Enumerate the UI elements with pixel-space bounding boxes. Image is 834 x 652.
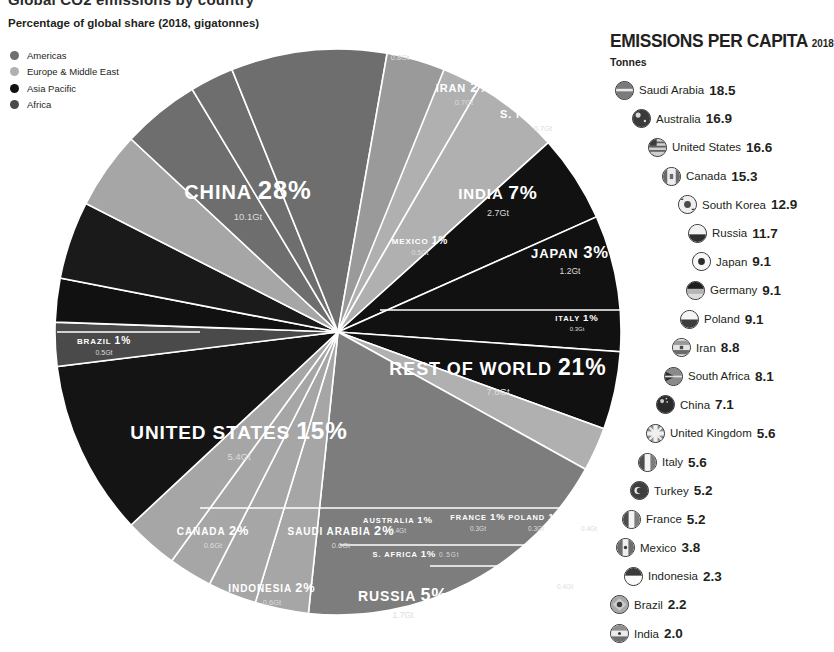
pie-label-value: 0.7Gt: [534, 124, 553, 133]
per-capita-row[interactable]: India2.0: [610, 619, 830, 648]
pie-label-country: POLAND: [508, 513, 548, 522]
per-capita-row[interactable]: Poland9.1: [610, 305, 830, 334]
flag-brazil-icon: [610, 595, 629, 614]
flag-mexico-icon: [616, 538, 635, 557]
per-capita-row[interactable]: South Korea12.9: [610, 190, 830, 219]
per-capita-row[interactable]: Indonesia2.3: [610, 562, 830, 591]
per-capita-row[interactable]: United States16.6: [610, 133, 830, 162]
svg-text:SAUDI ARABIA 2%: SAUDI ARABIA 2%: [288, 523, 395, 538]
svg-text:JAPAN 3%: JAPAN 3%: [531, 243, 609, 262]
pie-label-country: IRAN: [436, 82, 470, 94]
per-capita-value: 2.0: [664, 626, 683, 641]
pie-label-uk: UK 1%0.4Gt: [549, 569, 580, 590]
per-capita-row[interactable]: Brazil2.2: [610, 591, 830, 620]
per-capita-row[interactable]: Turkey5.2: [610, 476, 830, 505]
per-capita-value: 11.7: [752, 226, 778, 241]
per-capita-unit: Tonnes: [610, 56, 830, 68]
per-capita-country: Indonesia: [648, 570, 698, 582]
pie-label-value: 2.7Gt: [487, 208, 510, 218]
flag-france-icon: [622, 510, 641, 529]
pie-label-country: S. AFRICA: [373, 550, 421, 559]
pie-label-percent: 1%: [432, 235, 449, 246]
flag-indonesia-icon: [624, 567, 643, 586]
flag-china-icon: [656, 395, 675, 414]
per-capita-country: Brazil: [634, 599, 663, 611]
pie-label-percent: 2%: [470, 79, 492, 95]
pie-label-country: MEXICO: [392, 237, 432, 246]
per-capita-row[interactable]: Russia11.7: [610, 219, 830, 248]
per-capita-row[interactable]: France5.2: [610, 505, 830, 534]
per-capita-row[interactable]: United Kingdom5.6: [610, 419, 830, 448]
per-capita-country: Japan: [716, 256, 747, 268]
pie-label-value: 0.3Gt: [570, 326, 585, 332]
pie-label-country: BRAZIL: [77, 337, 115, 346]
per-capita-title: EMISSIONS PER CAPITA2018: [610, 30, 817, 52]
pie-label-value: 0.4Gt: [557, 583, 573, 590]
per-capita-country: Germany: [710, 284, 757, 296]
pie-label-country: UNITED STATES: [130, 422, 296, 443]
svg-text:RUSSIA 5%: RUSSIA 5%: [358, 585, 448, 605]
flag-australia-icon: [632, 109, 651, 128]
per-capita-row[interactable]: Mexico3.8: [610, 534, 830, 563]
flag-russia-icon: [688, 224, 707, 243]
per-capita-value: 5.6: [688, 455, 707, 470]
flag-united-states-icon: [648, 138, 667, 157]
pie-label-country: JAPAN: [531, 246, 583, 261]
pie-label-country: INDONESIA: [228, 583, 295, 594]
per-capita-row[interactable]: Iran8.8: [610, 333, 830, 362]
svg-text:GERMANY 2%: GERMANY 2%: [356, 34, 444, 50]
per-capita-country: Mexico: [640, 542, 676, 554]
svg-text:POLAND 1%: POLAND 1%: [508, 511, 564, 522]
per-capita-country: Canada: [686, 170, 726, 182]
pie-label-value: 0.6Gt: [332, 541, 351, 550]
per-capita-country: Russia: [712, 227, 747, 239]
per-capita-value: 16.9: [706, 111, 732, 126]
per-capita-row[interactable]: Saudi Arabia18.5: [610, 76, 830, 105]
pie-label-country: SAUDI ARABIA: [288, 526, 375, 537]
per-capita-row[interactable]: Australia16.9: [610, 105, 830, 134]
pie-label-percent: 1%: [417, 514, 433, 525]
per-capita-value: 12.9: [771, 197, 797, 212]
per-capita-country: France: [646, 513, 682, 525]
flag-italy-icon: [638, 453, 657, 472]
pie-label-percent: 2%: [422, 34, 444, 50]
svg-text:UK 1%: UK 1%: [549, 569, 580, 580]
per-capita-row[interactable]: Japan9.1: [610, 248, 830, 277]
per-capita-row[interactable]: Germany9.1: [610, 276, 830, 305]
per-capita-row[interactable]: Canada15.3: [610, 162, 830, 191]
svg-text:AUSTRALIA 1%: AUSTRALIA 1%: [363, 514, 433, 525]
pie-label-country: TURKEY: [562, 513, 601, 522]
per-capita-country: South Africa: [688, 370, 750, 382]
pie-label-percent: 5%: [420, 585, 448, 605]
per-capita-value: 9.1: [745, 312, 764, 327]
pie-label-country: UK: [549, 571, 565, 580]
pie-label-value: 0.8Gt: [391, 53, 410, 62]
per-capita-value: 5.2: [687, 512, 706, 527]
svg-text:INDIA 7%: INDIA 7%: [458, 182, 537, 203]
pie-label-value: 0.6Gt: [204, 541, 223, 550]
per-capita-value: 7.1: [715, 397, 734, 412]
per-capita-value: 2.3: [703, 569, 722, 584]
flag-germany-icon: [686, 281, 705, 300]
per-capita-title-text: EMISSIONS PER CAPITA: [610, 30, 808, 51]
pie-label-value: 0.5Gt: [411, 249, 428, 256]
per-capita-row[interactable]: Italy5.6: [610, 448, 830, 477]
per-capita-value: 8.8: [721, 340, 740, 355]
pie-label-country: ITALY: [555, 314, 583, 323]
flag-poland-icon: [680, 310, 699, 329]
per-capita-year: 2018: [812, 37, 834, 49]
per-capita-country: Turkey: [654, 485, 689, 497]
flag-japan-icon: [692, 252, 711, 271]
emissions-per-capita-panel: EMISSIONS PER CAPITA2018 Tonnes Saudi Ar…: [610, 30, 830, 648]
per-capita-country: Italy: [662, 456, 683, 468]
per-capita-row[interactable]: China7.1: [610, 391, 830, 420]
per-capita-list: Saudi Arabia18.5Australia16.9United Stat…: [610, 76, 830, 648]
pie-label-percent: 1%: [490, 511, 506, 522]
pie-label-value: 0.3Gt: [470, 525, 486, 532]
per-capita-value: 15.3: [731, 169, 757, 184]
flag-turkey-icon: [630, 481, 649, 500]
svg-text:BRAZIL 1%: BRAZIL 1%: [77, 335, 131, 346]
per-capita-row[interactable]: South Africa8.1: [610, 362, 830, 391]
svg-text:IRAN 2%: IRAN 2%: [436, 79, 493, 95]
pie-label-percent: 3%: [583, 243, 609, 262]
